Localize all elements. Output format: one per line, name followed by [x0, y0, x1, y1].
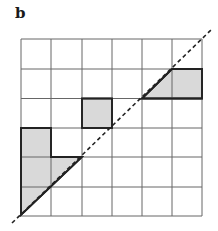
grid-diagram	[0, 0, 218, 231]
shaded-region-middle-square	[82, 99, 112, 129]
